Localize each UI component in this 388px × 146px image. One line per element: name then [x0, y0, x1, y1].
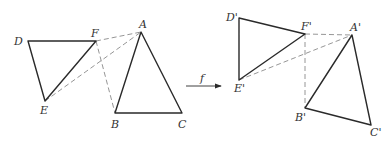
- label-B': B': [294, 111, 306, 124]
- triangle-A'B'C': [305, 35, 371, 125]
- geometry-diagram: D F E A B C f D' F' E' A' B' C': [0, 0, 388, 146]
- label-A': A': [349, 21, 361, 34]
- segment-EA: [45, 32, 141, 101]
- label-C': C': [370, 126, 381, 139]
- label-F: F: [90, 27, 99, 40]
- label-B: B: [110, 118, 119, 131]
- segment-E'A': [239, 35, 352, 80]
- label-F': F': [300, 20, 312, 33]
- label-E': E': [233, 82, 245, 95]
- label-E: E: [39, 104, 48, 117]
- triangle-D'E'F': [239, 18, 305, 80]
- image-figure: D' F' E' A' B' C': [225, 11, 381, 139]
- triangle-ABC: [115, 32, 182, 113]
- mapping-label: f: [199, 72, 206, 85]
- label-A: A: [138, 18, 147, 31]
- label-D': D': [225, 11, 238, 24]
- triangle-DEF: [28, 41, 96, 101]
- segment-FA: [96, 32, 141, 41]
- label-D: D: [13, 35, 23, 48]
- mapping-arrow: f: [186, 72, 221, 86]
- segment-FB: [96, 41, 115, 113]
- label-C: C: [178, 118, 187, 131]
- original-figure: D F E A B C: [13, 18, 187, 131]
- segment-F'A': [305, 34, 352, 35]
- image-dashed-lines: [239, 34, 352, 108]
